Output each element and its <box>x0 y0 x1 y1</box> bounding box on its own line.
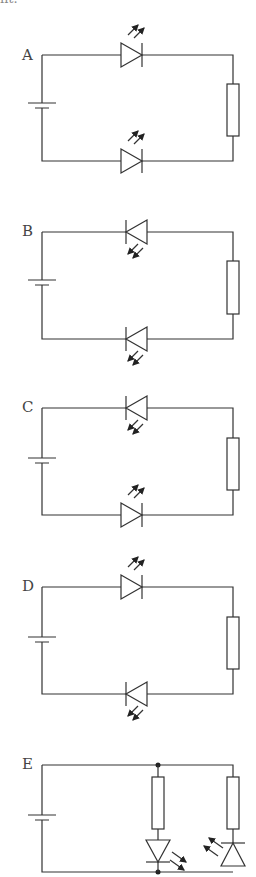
circuit-e <box>28 763 245 875</box>
led-top-icon <box>126 220 147 258</box>
circuit-c <box>28 396 239 527</box>
battery-icon <box>28 103 56 108</box>
battery-icon <box>28 815 56 820</box>
photodiode-branch2-icon <box>204 838 245 866</box>
circuit-a <box>28 25 239 173</box>
resistor-icon <box>227 438 239 490</box>
resistor-icon <box>227 261 239 314</box>
battery-icon <box>28 458 56 463</box>
led-top-icon <box>121 557 144 599</box>
circuit-d <box>28 557 239 720</box>
led-bottom-icon <box>126 327 147 365</box>
battery-icon <box>28 280 56 285</box>
led-bottom-icon <box>126 682 147 720</box>
resistor-branch1-icon <box>152 777 164 829</box>
circuit-diagrams <box>0 0 256 877</box>
circuit-b <box>28 220 239 365</box>
led-branch1-icon <box>146 840 186 870</box>
led-bottom-icon <box>121 131 144 173</box>
resistor-icon <box>227 617 239 669</box>
resistor-icon <box>227 84 239 136</box>
battery-icon <box>28 637 56 642</box>
resistor-branch2-icon <box>227 777 239 829</box>
led-top-icon <box>121 25 144 67</box>
led-bottom-icon <box>121 485 144 527</box>
led-top-icon <box>126 396 147 434</box>
